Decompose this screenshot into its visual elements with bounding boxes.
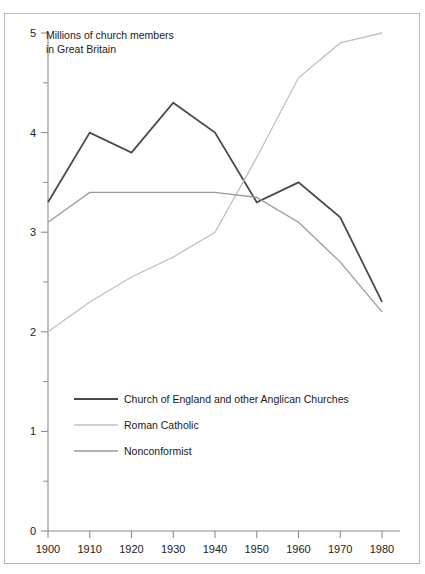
y-tick-label: 1 — [30, 425, 36, 437]
x-tick-label: 1970 — [328, 543, 352, 555]
data-series — [48, 33, 382, 332]
axes — [48, 33, 400, 531]
y-tick-label: 0 — [30, 525, 36, 537]
y-axis-ticks — [41, 33, 48, 531]
y-tick-label: 4 — [30, 127, 36, 139]
legend-label-1: Church of England and other Anglican Chu… — [124, 393, 349, 405]
legend-label-3: Nonconformist — [124, 445, 192, 457]
series-line-2 — [48, 33, 382, 332]
x-tick-label: 1940 — [203, 543, 227, 555]
y-axis-tick-labels: 012345 — [30, 27, 36, 537]
line-chart: 012345 190019101920193019401950196019701… — [0, 0, 425, 574]
x-tick-label: 1920 — [119, 543, 143, 555]
y-tick-label: 3 — [30, 226, 36, 238]
x-tick-label: 1900 — [36, 543, 60, 555]
y-tick-label: 5 — [30, 27, 36, 39]
chart-title-line-2: in Great Britain — [46, 43, 116, 55]
legend-label-2: Roman Catholic — [124, 419, 199, 431]
chart-title-line-1: Millions of church members — [46, 29, 174, 41]
x-tick-label: 1950 — [245, 543, 269, 555]
x-tick-label: 1980 — [370, 543, 394, 555]
x-tick-label: 1910 — [78, 543, 102, 555]
x-axis-ticks — [48, 531, 382, 538]
series-line-1 — [48, 103, 382, 302]
y-tick-label: 2 — [30, 326, 36, 338]
chart-legend: Church of England and other Anglican Chu… — [74, 393, 349, 457]
x-tick-label: 1930 — [161, 543, 185, 555]
x-tick-label: 1960 — [286, 543, 310, 555]
x-axis-tick-labels: 190019101920193019401950196019701980 — [36, 543, 394, 555]
